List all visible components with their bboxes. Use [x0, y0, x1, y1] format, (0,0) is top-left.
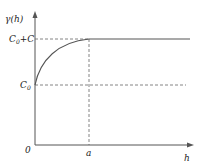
origin-label: 0 — [25, 145, 31, 155]
semivariogram-chart: γ(h) h 0 a C0+C C0 — [0, 0, 207, 166]
x-axis-label: h — [184, 153, 190, 163]
x-axis-arrow-icon — [187, 143, 194, 148]
y-axis-label: γ(h) — [5, 14, 24, 24]
semivariogram-curve — [35, 39, 190, 85]
y-axis-arrow-icon — [33, 11, 38, 18]
range-tick-label: a — [86, 148, 91, 158]
nugget-tick-label: C0 — [20, 80, 31, 91]
sill-tick-label: C0+C — [9, 34, 34, 45]
